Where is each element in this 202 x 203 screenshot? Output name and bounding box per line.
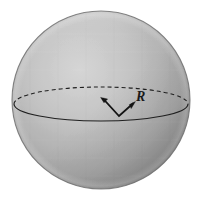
figure-root: R [0, 0, 202, 203]
radius-label: R [135, 89, 145, 104]
figure-canvas: R [0, 0, 202, 203]
sphere-top-edge-light [12, 11, 190, 189]
